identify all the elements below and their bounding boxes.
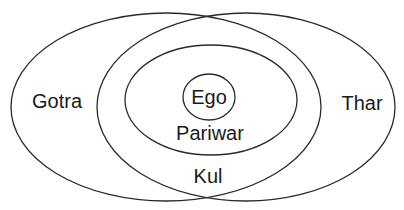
- kul-label: Kul: [194, 166, 223, 186]
- pariwar-label: Pariwar: [176, 123, 244, 143]
- gotra-label: Gotra: [32, 91, 82, 111]
- thar-label: Thar: [341, 93, 382, 113]
- ego-label: Ego: [191, 87, 227, 107]
- kinship-diagram: Gotra Thar Pariwar Ego Kul: [0, 0, 404, 210]
